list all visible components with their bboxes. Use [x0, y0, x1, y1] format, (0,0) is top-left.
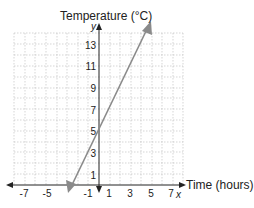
y-axis-up-arrow-icon	[96, 23, 102, 30]
x-tick: 5	[148, 188, 154, 199]
y-tick-labels: 1 3 5 7 9 11 13	[85, 40, 97, 181]
x-tick: -7	[20, 188, 29, 199]
y-tick: 1	[90, 170, 96, 181]
x-axis-title: Time (hours)	[186, 178, 254, 192]
y-axis	[96, 23, 102, 193]
x-tick: -5	[43, 188, 52, 199]
x-axis-left-arrow-icon	[6, 182, 13, 188]
x-axis-right-arrow-icon	[179, 182, 186, 188]
y-tick: 11	[86, 61, 97, 72]
y-axis-title: Temperature (°C)	[60, 9, 152, 23]
y-axis-down-arrow-icon	[96, 186, 102, 193]
x-tick-labels: -7 -5 -1 1 3 5 7	[20, 188, 175, 199]
x-tick: 1	[106, 188, 112, 199]
y-tick: 13	[85, 40, 97, 51]
x-axis	[6, 182, 186, 188]
series-line	[66, 21, 152, 193]
y-tick: 9	[90, 83, 96, 94]
y-tick: 5	[90, 126, 96, 137]
chart: 1 3 5 7 9 11 13 -7 -5 -1 1 3 5 7 Tempera…	[0, 0, 254, 208]
x-axis-var: x	[175, 189, 182, 200]
y-tick: 7	[90, 105, 96, 116]
line-bottom-arrow-icon	[66, 180, 76, 193]
y-tick: 3	[90, 148, 96, 159]
x-tick: -1	[84, 188, 93, 199]
y-axis-var: y	[90, 21, 97, 32]
x-tick: 7	[168, 188, 174, 199]
x-tick: 3	[127, 188, 133, 199]
